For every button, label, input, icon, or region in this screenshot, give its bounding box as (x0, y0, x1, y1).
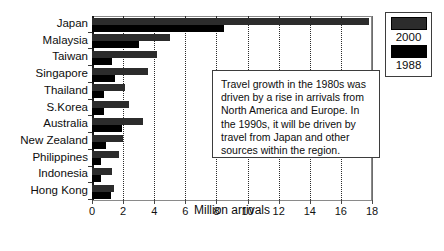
category-label-singapore: Singapore (36, 67, 88, 80)
bar-1988-s-korea (92, 108, 104, 115)
bar-1988-hong-kong (92, 192, 111, 199)
y-tick (88, 166, 92, 167)
y-tick (88, 99, 92, 100)
annotation-textbox: Travel growth in the 1980s was driven by… (212, 70, 380, 158)
y-tick (88, 132, 92, 133)
y-tick (88, 182, 92, 183)
category-label-japan: Japan (57, 17, 88, 30)
bar-1988-australia (92, 125, 122, 132)
bar-1988-indonesia (92, 175, 101, 182)
bar-2000-thailand (92, 84, 125, 91)
x-tick-18 (372, 200, 373, 204)
bar-2000-indonesia (92, 168, 112, 175)
bar-1988-taiwan (92, 58, 112, 65)
category-label-hong-kong: Hong Kong (30, 184, 88, 197)
bar-2000-malaysia (92, 34, 170, 41)
category-label-indonesia: Indonesia (38, 167, 88, 180)
bar-1988-singapore (92, 75, 115, 82)
bar-1988-thailand (92, 91, 104, 98)
legend-label-2000: 2000 (389, 30, 428, 45)
gridline-4 (154, 16, 155, 200)
category-label-philippines: Philippines (32, 151, 88, 164)
category-label-thailand: Thailand (44, 84, 88, 97)
chart-legend: 2000 1988 (385, 12, 432, 77)
bar-2000-singapore (92, 68, 148, 75)
bar-1988-japan (92, 25, 224, 32)
y-tick (88, 65, 92, 66)
bar-2000-new-zealand (92, 135, 123, 142)
category-label-new-zealand: New Zealand (20, 134, 88, 147)
bar-2000-australia (92, 118, 143, 125)
y-tick (88, 82, 92, 83)
category-label-s-korea: S.Korea (46, 101, 88, 114)
bar-2000-taiwan (92, 51, 157, 58)
bar-2000-japan (92, 18, 369, 25)
bar-2000-s-korea (92, 101, 129, 108)
legend-swatch-1988 (391, 45, 427, 58)
bar-2000-hong-kong (92, 185, 114, 192)
bar-1988-malaysia (92, 41, 139, 48)
bar-1988-philippines (92, 158, 101, 165)
y-tick (88, 32, 92, 33)
gridline-6 (185, 16, 186, 200)
x-axis-title: Million arrivals (92, 203, 372, 217)
bar-1988-new-zealand (92, 142, 106, 149)
bar-2000-philippines (92, 151, 119, 158)
legend-swatch-2000 (391, 17, 427, 30)
category-label-taiwan: Taiwan (52, 50, 88, 63)
y-tick (88, 48, 92, 49)
chart-figure: 024681012141618 JapanMalaysiaTaiwanSinga… (0, 0, 444, 251)
category-label-malaysia: Malaysia (43, 34, 88, 47)
y-tick (88, 115, 92, 116)
category-label-australia: Australia (43, 117, 88, 130)
y-tick (88, 149, 92, 150)
x-axis-line (92, 200, 372, 201)
legend-label-1988: 1988 (389, 58, 428, 73)
